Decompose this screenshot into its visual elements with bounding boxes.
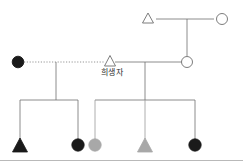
person-II-1-circle-affected — [12, 56, 24, 68]
generation-1-group — [143, 13, 228, 56]
person-I-1-triangle-unaffected — [143, 13, 154, 23]
person-III-1-triangle-affected — [13, 138, 28, 152]
pedigree-chart: 희생자 — [0, 0, 243, 165]
person-II-3-circle-unaffected — [182, 57, 193, 68]
generation-3-group — [13, 100, 202, 152]
person-II-2-triangle-proband — [105, 56, 116, 67]
person-III-3-circle-carrier — [89, 139, 101, 151]
proband-label: 희생자 — [84, 68, 140, 78]
pedigree-diagram — [0, 0, 243, 165]
person-III-4-triangle-carrier — [138, 138, 153, 152]
person-III-5-circle-affected — [189, 139, 201, 151]
person-I-2-circle-unaffected — [217, 14, 228, 25]
person-III-2-circle-affected — [72, 139, 84, 151]
